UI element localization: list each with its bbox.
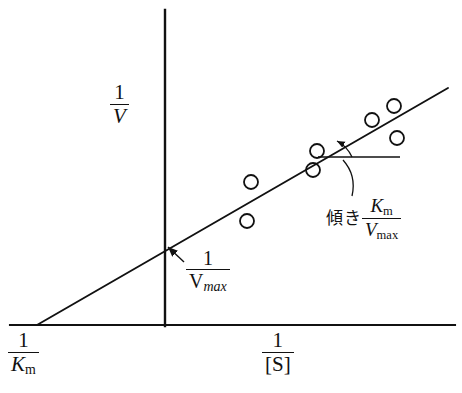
x-intercept-denominator-subscript: m xyxy=(25,362,36,377)
slope-angle-arc xyxy=(337,141,352,157)
y-axis-label-numerator: 1 xyxy=(110,82,129,105)
lineweaver-burk-plot: 1 V 1 [S] 1 Km 1 Vmax 傾き Km Vmax xyxy=(0,0,462,393)
data-point xyxy=(365,113,379,127)
x-axis-label: 1 [S] xyxy=(262,330,294,375)
x-intercept-denominator: K xyxy=(11,352,25,376)
y-intercept-numerator: 1 xyxy=(186,248,230,270)
y-intercept-denominator-subscript: max xyxy=(203,279,226,294)
slope-leader-curve xyxy=(343,160,353,196)
data-point xyxy=(310,144,324,158)
data-point xyxy=(244,175,258,189)
x-intercept-label: 1 Km xyxy=(8,330,39,377)
y-intercept-denominator: V xyxy=(189,270,203,292)
y-intercept-leader-arrow xyxy=(168,247,184,262)
data-point xyxy=(240,214,254,228)
y-axis-label: 1 V xyxy=(110,82,129,127)
x-axis-label-numerator: 1 xyxy=(262,330,294,353)
y-axis-label-denominator: V xyxy=(110,105,129,127)
slope-denominator-subscript: max xyxy=(377,228,399,242)
slope-annotation: 傾き Km Vmax xyxy=(326,196,401,242)
slope-numerator-subscript: m xyxy=(383,204,393,218)
data-point xyxy=(387,99,401,113)
data-point xyxy=(390,131,404,145)
x-intercept-numerator: 1 xyxy=(8,330,39,353)
x-axis-label-denominator: [S] xyxy=(262,353,294,375)
slope-annotation-prefix: 傾き xyxy=(326,208,362,228)
y-intercept-label: 1 Vmax xyxy=(186,248,230,294)
slope-denominator: V xyxy=(365,219,377,240)
slope-numerator: K xyxy=(370,195,383,216)
